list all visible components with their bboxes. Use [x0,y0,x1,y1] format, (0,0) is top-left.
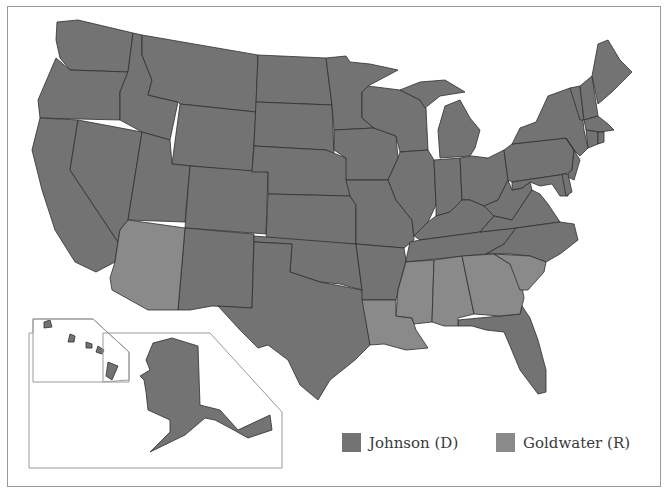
state-alaska[interactable] [140,338,272,452]
state-arizona[interactable] [110,220,185,310]
state-kansas[interactable] [266,194,356,244]
legend-label-goldwater: Goldwater (R) [523,434,630,452]
state-massachusetts[interactable] [584,116,614,132]
state-colorado[interactable] [185,166,268,234]
state-connecticut[interactable] [586,130,598,148]
state-hawaii[interactable] [44,320,118,380]
legend-item-goldwater: Goldwater (R) [496,433,630,452]
state-washington[interactable] [56,20,133,72]
legend-item-johnson: Johnson (D) [342,433,458,452]
legend-swatch-johnson [342,433,361,452]
us-map [0,0,670,497]
state-rhode-island[interactable] [598,132,604,144]
state-new-mexico[interactable] [178,228,254,310]
state-maine[interactable] [592,40,632,104]
legend-swatch-goldwater [496,433,515,452]
legend-label-johnson: Johnson (D) [369,434,458,452]
state-north-dakota[interactable] [256,55,332,105]
state-wyoming[interactable] [172,104,256,172]
state-florida[interactable] [458,306,546,394]
